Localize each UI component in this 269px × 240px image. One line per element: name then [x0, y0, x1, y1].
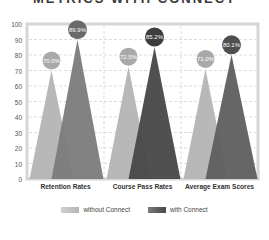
y-tick-label: 50: [2, 98, 22, 105]
svg-text:72.5%: 72.5%: [120, 54, 138, 60]
svg-text:80.1%: 80.1%: [223, 42, 241, 48]
legend: without Connect with Connect: [0, 206, 269, 213]
x-axis-label: Retention Rates: [40, 183, 90, 190]
value-bubble-with: 80.1%: [222, 35, 241, 54]
svg-text:70.0%: 70.0%: [43, 58, 61, 64]
svg-text:85.2%: 85.2%: [146, 34, 164, 40]
legend-item-without-connect: without Connect: [61, 206, 130, 213]
value-bubble-with: 89.9%: [68, 20, 87, 39]
y-tick-label: 100: [2, 21, 22, 28]
x-axis-label: Course Pass Rates: [113, 183, 173, 190]
y-tick-label: 60: [2, 83, 22, 90]
legend-swatch-with: [148, 207, 166, 213]
y-tick-label: 70: [2, 67, 22, 74]
value-bubble-without: 70.0%: [43, 52, 61, 70]
y-tick-label: 20: [2, 145, 22, 152]
y-tick-label: 30: [2, 129, 22, 136]
y-tick-label: 10: [2, 160, 22, 167]
legend-label-with: with Connect: [170, 206, 208, 213]
value-bubble-without: 71.0%: [197, 50, 215, 68]
x-axis-label: Average Exam Scores: [185, 183, 254, 190]
y-tick-label: 90: [2, 36, 22, 43]
value-bubble-without: 72.5%: [120, 48, 138, 66]
legend-item-with-connect: with Connect: [148, 206, 208, 213]
y-tick-label: 40: [2, 114, 22, 121]
value-bubble-with: 85.2%: [145, 27, 164, 46]
svg-text:71.0%: 71.0%: [197, 56, 215, 62]
y-tick-label: 80: [2, 52, 22, 59]
legend-swatch-without: [61, 207, 79, 213]
y-tick-label: 0: [2, 176, 22, 183]
svg-text:89.9%: 89.9%: [69, 27, 87, 33]
legend-label-without: without Connect: [83, 206, 130, 213]
